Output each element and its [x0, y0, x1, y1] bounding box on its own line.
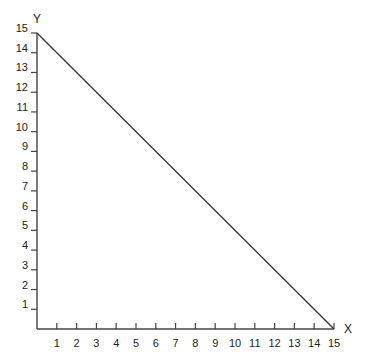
x-tick-label: 4 — [113, 337, 119, 349]
x-tick-label: 13 — [288, 337, 300, 349]
x-tick-label: 8 — [192, 337, 198, 349]
y-tick-label: 9 — [22, 140, 28, 152]
x-tick-label: 11 — [249, 337, 260, 349]
x-tick-label: 2 — [74, 337, 80, 349]
x-tick-label: 3 — [93, 337, 99, 349]
series-line — [37, 33, 334, 329]
x-tick-label: 6 — [153, 337, 159, 349]
x-tick-label: 14 — [308, 337, 320, 349]
y-tick-label: 5 — [22, 219, 28, 231]
y-tick-label: 7 — [22, 180, 28, 192]
y-tick-label: 12 — [16, 81, 28, 93]
x-tick-label: 5 — [133, 337, 139, 349]
x-axis-ticks: 123456789101112131415 — [54, 323, 340, 349]
y-axis-label: Y — [33, 12, 41, 26]
y-tick-label: 14 — [16, 42, 28, 54]
x-tick-label: 10 — [229, 337, 241, 349]
y-tick-label: 11 — [17, 101, 28, 113]
x-tick-label: 9 — [212, 337, 218, 349]
y-axis-ticks: 123456789101112131415 — [16, 22, 37, 310]
y-tick-label: 10 — [16, 121, 28, 133]
x-tick-label: 15 — [328, 337, 340, 349]
y-tick-label: 15 — [16, 22, 28, 34]
y-tick-label: 13 — [16, 61, 28, 73]
x-tick-label: 1 — [54, 337, 60, 349]
line-chart: 123456789101112131415 123456789101112131… — [0, 0, 365, 363]
x-tick-label: 12 — [268, 337, 280, 349]
y-tick-label: 3 — [22, 259, 28, 271]
x-axis-label: X — [344, 322, 352, 336]
x-tick-label: 7 — [173, 337, 179, 349]
y-tick-label: 4 — [22, 239, 28, 251]
y-tick-label: 2 — [22, 279, 28, 291]
y-tick-label: 1 — [22, 298, 28, 310]
data-series — [37, 33, 334, 329]
y-tick-label: 8 — [22, 160, 28, 172]
y-tick-label: 6 — [22, 200, 28, 212]
